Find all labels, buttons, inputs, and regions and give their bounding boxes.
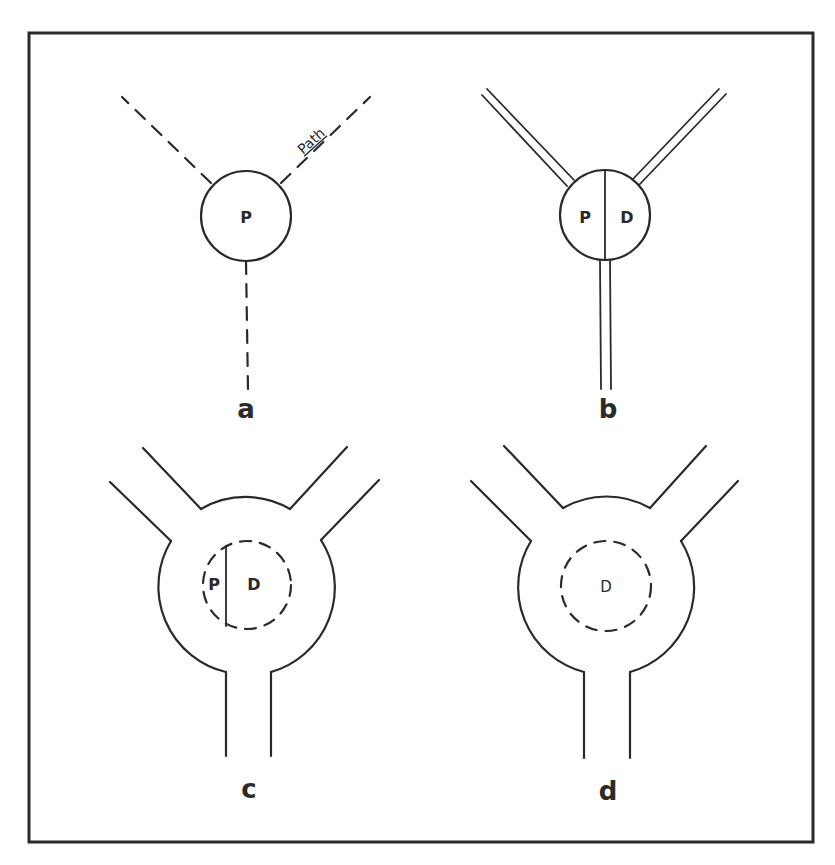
panel-label-a: a [237,394,255,424]
panel-label-c: c [241,774,256,804]
node-label-d: D [620,208,633,227]
figure-canvas: P Path a P D b P D c [0,0,835,865]
channel-right-outer [321,480,379,540]
double-path-left-b [487,89,574,180]
double-path-left-a [482,95,567,186]
node-label-p: P [208,575,220,594]
figure-frame [29,33,813,842]
chamber-top-arc [563,496,650,508]
node-label-p: P [240,208,252,227]
panel-a: P Path a [122,97,370,424]
path-label: Path [294,125,328,157]
channel-left-outer [471,481,531,541]
panel-b: P D b [482,89,726,424]
double-path-right-a [639,94,726,185]
dashed-path-left [122,97,211,183]
channel-right-outer [681,481,738,541]
node-label-d: D [600,578,612,596]
chamber-left-arc [518,541,584,672]
node-label-p: P [579,208,591,227]
chamber-right-arc [630,541,694,672]
chamber-left-arc [158,541,226,672]
double-path-down-b [610,260,611,389]
double-path-down-a [600,260,601,389]
chamber-top-arc [201,497,290,509]
channel-left-outer [110,482,171,541]
node-label-d: D [247,575,260,594]
dashed-path-down [246,261,248,390]
double-path-right-b [633,89,719,179]
channel-left-inner [143,448,201,509]
channel-left-inner [504,446,563,508]
chamber-right-arc [271,540,335,672]
panel-label-d: d [599,776,618,806]
panel-d: D d [471,446,738,806]
dashed-path-right [281,97,370,183]
channel-right-inner [650,446,706,508]
panel-c: P D c [110,447,379,804]
channel-right-inner [290,447,347,509]
panel-label-b: b [599,394,618,424]
